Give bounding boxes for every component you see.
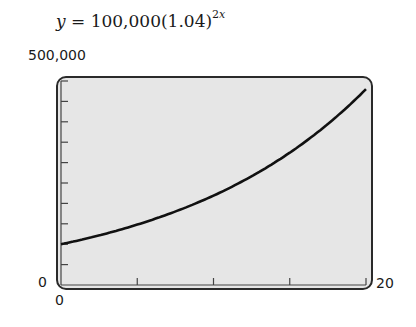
plot-frame bbox=[57, 77, 372, 289]
chart-plot-area bbox=[0, 0, 416, 327]
